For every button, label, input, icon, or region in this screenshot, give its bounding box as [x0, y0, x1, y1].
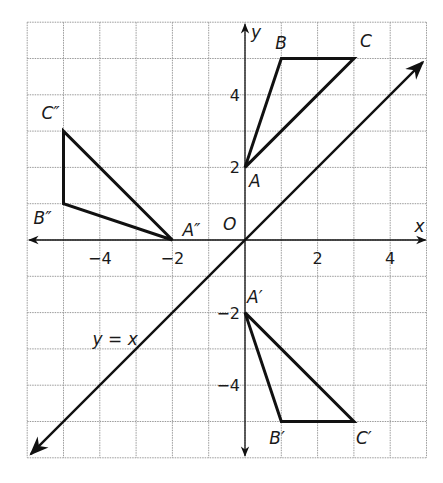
y-tick-label: −2 [216, 304, 240, 323]
y-axis-label: y [250, 22, 262, 42]
triangle-abc [245, 313, 354, 422]
vertex-label: A [248, 171, 261, 191]
x-tick-label: −2 [161, 249, 185, 268]
origin-label: O [223, 214, 236, 234]
triangle-abc [245, 59, 354, 168]
vertex-label: B [275, 33, 287, 53]
vertex-label: C″ [42, 103, 61, 123]
y-tick-label: −4 [216, 376, 240, 395]
x-axis-label: x [414, 216, 426, 236]
vertex-label: B″ [34, 208, 53, 228]
triangle-abc [64, 131, 173, 240]
x-tick-label: 4 [385, 249, 395, 268]
x-tick-label: −4 [88, 249, 112, 268]
vertex-label: C′ [356, 428, 372, 448]
line-equation-label: y = x [92, 329, 139, 349]
vertex-label: C [360, 31, 372, 51]
y-tick-label: 2 [230, 158, 240, 177]
vertex-label: B′ [269, 428, 285, 448]
coordinate-plane: xyO −4−22442−2−4 y = x ABCA′B′C′A″B″C″ [0, 0, 443, 483]
vertex-label: A′ [246, 287, 263, 307]
vertex-label: A″ [181, 220, 201, 240]
y-tick-label: 4 [230, 86, 240, 105]
x-tick-label: 2 [313, 249, 323, 268]
